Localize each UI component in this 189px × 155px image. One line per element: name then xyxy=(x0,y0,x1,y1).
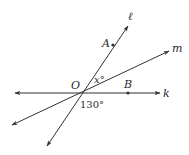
point-b xyxy=(126,91,129,94)
line-l xyxy=(47,26,128,146)
point-o-label: O xyxy=(71,79,80,92)
angle-130-label: 130° xyxy=(80,99,104,110)
point-a xyxy=(111,43,114,46)
line-m xyxy=(12,51,169,125)
line-l-label: ℓ xyxy=(128,10,133,23)
geometry-diagram: k m ℓ A B O x° 130° xyxy=(0,0,189,155)
point-b-label: B xyxy=(123,78,132,91)
angle-x-label: x° xyxy=(94,74,105,85)
point-a-label: A xyxy=(101,37,110,50)
line-m-label: m xyxy=(172,42,182,55)
lines-group xyxy=(12,26,169,146)
line-k-label: k xyxy=(163,87,170,100)
